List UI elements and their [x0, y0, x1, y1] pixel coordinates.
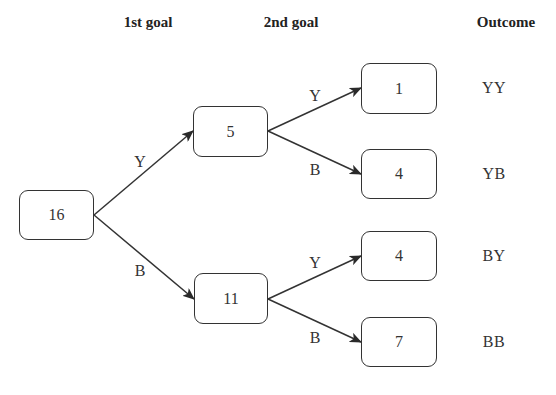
- edge-label-root-y: Y: [134, 153, 146, 171]
- outcome-yb: YB: [482, 165, 505, 183]
- outcome-yy: YY: [482, 79, 506, 97]
- edge-root-to-y: [94, 131, 193, 215]
- edge-label-b-y: Y: [309, 254, 321, 272]
- edge-label-root-b: B: [135, 262, 146, 280]
- node-yb: 4: [361, 149, 437, 199]
- node-root: 16: [19, 190, 94, 240]
- node-by: 4: [361, 231, 437, 281]
- node-first-y: 5: [193, 106, 268, 157]
- node-bb: 7: [361, 317, 437, 367]
- edge-root-to-b: [94, 215, 194, 299]
- edge-label-b-b: B: [310, 329, 321, 347]
- outcome-bb: BB: [483, 333, 505, 351]
- edge-label-y-b: B: [310, 161, 321, 179]
- edge-label-y-y: Y: [309, 87, 321, 105]
- node-yy: 1: [361, 63, 437, 114]
- outcome-by: BY: [482, 247, 505, 265]
- node-first-b: 11: [194, 273, 268, 324]
